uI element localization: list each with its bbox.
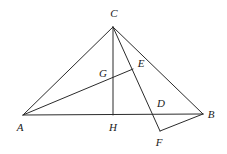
vertex-label-H: H xyxy=(109,122,117,133)
vertex-label-F: F xyxy=(156,137,163,148)
vertex-label-C: C xyxy=(110,8,117,19)
segments-group xyxy=(23,27,203,131)
vertex-label-D: D xyxy=(157,98,165,109)
segment-FB xyxy=(160,114,203,131)
vertex-label-A: A xyxy=(17,122,24,133)
vertex-label-E: E xyxy=(138,58,145,69)
geometry-figure: C E G A H D B F xyxy=(0,0,227,154)
vertex-label-G: G xyxy=(99,68,107,79)
cevian-AE xyxy=(23,69,133,115)
cevian-CF xyxy=(113,27,160,131)
vertex-label-B: B xyxy=(208,109,215,120)
